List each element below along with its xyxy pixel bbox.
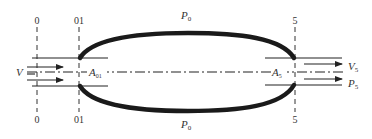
control-volume-top-boundary — [80, 33, 294, 58]
station-01-top-label: 01 — [74, 15, 84, 26]
control-volume-diagram: 0 01 5 0 01 5 P0 P0 V A01 A5 V5 P5 — [0, 0, 372, 139]
exit-pressure-label: P5 — [347, 77, 359, 91]
station-01-bottom-label: 01 — [74, 114, 84, 125]
exit-velocity-label: V5 — [348, 60, 359, 74]
station-0-bottom-label: 0 — [35, 114, 40, 125]
ambient-pressure-top-label: P0 — [180, 9, 192, 23]
ambient-pressure-bottom-label: P0 — [180, 118, 192, 132]
control-volume-bottom-boundary — [80, 85, 294, 111]
inlet-velocity-label: V — [16, 66, 24, 78]
station-0-top-label: 0 — [35, 15, 40, 26]
station-5-top-label: 5 — [293, 15, 298, 26]
station-5-bottom-label: 5 — [293, 114, 298, 125]
